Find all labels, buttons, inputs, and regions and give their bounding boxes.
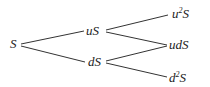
node-downdown-d2s: d2S: [169, 71, 186, 84]
node-root-label: S: [10, 36, 17, 51]
edge-down-to-updown: [106, 46, 167, 61]
node-up-us: uS: [86, 24, 99, 37]
node-root-s: S: [10, 37, 17, 50]
node-upup-u2s: u2S: [172, 7, 189, 20]
edge-up-to-updown: [106, 32, 167, 45]
edge-root-to-down: [21, 46, 85, 62]
node-upup-tail: S: [183, 6, 190, 21]
edge-down-to-downdown: [106, 63, 167, 77]
node-down-label: dS: [88, 54, 101, 69]
node-updown-uds: udS: [169, 38, 189, 51]
edge-up-to-upup: [106, 15, 168, 30]
node-downdown-tail: S: [180, 70, 187, 85]
edge-root-to-up: [21, 31, 84, 44]
node-down-ds: dS: [88, 55, 101, 68]
binomial-tree-diagram: S uS dS u2S udS d2S: [0, 0, 210, 87]
node-updown-label: udS: [169, 37, 189, 52]
node-up-label: uS: [86, 23, 99, 38]
